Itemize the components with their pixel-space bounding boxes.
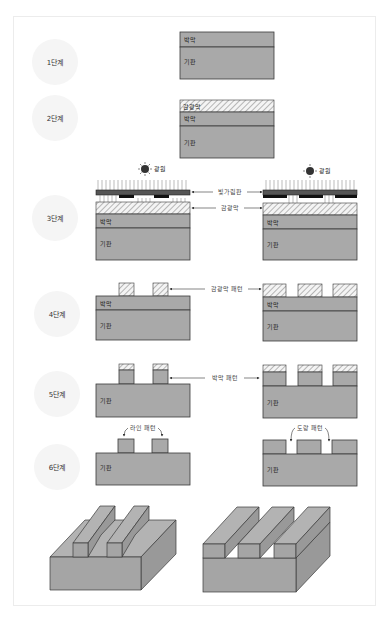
substrate-label: 기판: [100, 240, 112, 248]
thin-film-label: 박막: [100, 300, 112, 308]
thin-film-label: 박막: [267, 219, 279, 227]
line-pattern-block: [152, 439, 168, 453]
photoresist-pattern: [153, 283, 168, 296]
sun-icon: [306, 167, 314, 175]
thin-film-pattern: [263, 372, 286, 386]
photoresist-remnant: [153, 364, 168, 370]
photoresist-remnant: [119, 364, 134, 370]
substrate-label: 기판: [267, 241, 279, 249]
thin-film-pattern: [119, 370, 134, 384]
photomask-callout: 빛가림판: [218, 188, 242, 196]
substrate-label: 기판: [100, 397, 112, 405]
sun-icon: [141, 165, 149, 173]
step-1: 1단계 박막 기판: [32, 32, 274, 85]
photolithography-diagram: 1단계 박막 기판 2단계 감광막 박막 기판 3단계 광원: [0, 0, 389, 624]
thin-film-pattern: [333, 372, 357, 386]
line-pattern-block: [118, 439, 134, 453]
thin-film-pattern: [298, 372, 322, 386]
trench-wall-block: [297, 440, 321, 454]
substrate-label: 기판: [267, 466, 279, 474]
trench-wall-block: [263, 440, 286, 454]
arrow-line-pattern-right: [158, 428, 162, 436]
arrow-line-pattern-left: [124, 428, 128, 436]
step-label: 6단계: [49, 463, 65, 472]
trench-pattern-callout: 도랑 패턴: [297, 424, 323, 432]
light-rays-right: [266, 180, 354, 190]
photoresist-layer: [263, 203, 357, 215]
step-label: 3단계: [47, 214, 63, 223]
step-label: 4단계: [49, 310, 65, 319]
step-5: 5단계 기판 박막 패턴 기판: [34, 364, 357, 418]
step-2: 2단계 감광막 박막 기판: [32, 95, 274, 158]
step-label: 5단계: [49, 390, 65, 399]
photoresist-pattern: [298, 284, 322, 297]
step-6: 6단계 라인 패턴 기판 도랑 패턴 기판: [34, 424, 357, 490]
substrate-label: 기판: [100, 464, 112, 472]
step-label: 2단계: [47, 114, 63, 123]
photoresist-pattern: [333, 284, 357, 297]
light-source-left: 광원: [138, 162, 166, 176]
arrow-trench-pattern-left: [291, 428, 295, 441]
trench-wall-block: [332, 440, 357, 454]
light-rays-left: [98, 180, 186, 190]
photoresist-label: 감광막: [183, 103, 201, 111]
step-label: 1단계: [47, 58, 63, 67]
photoresist-remnant: [333, 365, 357, 372]
substrate-label: 기판: [100, 322, 112, 330]
light-source-label: 광원: [154, 165, 166, 172]
substrate-label: 기판: [267, 323, 279, 331]
thin-film-pattern: [153, 370, 168, 384]
light-source-label: 광원: [319, 167, 331, 174]
mask-opaque-region: [335, 195, 357, 198]
thin-film-label: 박막: [267, 301, 279, 309]
photoresist-remnant: [298, 365, 322, 372]
mask-opaque-region: [154, 195, 169, 198]
trench-pattern-3d: [203, 507, 330, 592]
thin-film-label: 박막: [184, 115, 196, 123]
photoresist-pattern: [263, 284, 286, 297]
step-3: 3단계 광원: [32, 162, 357, 260]
thin-film-label: 박막: [184, 36, 196, 44]
line-pattern-callout: 라인 패턴: [130, 424, 156, 432]
photoresist-pattern: [119, 283, 134, 296]
mask-opaque-region: [263, 195, 287, 198]
thin-film-label: 박막: [100, 218, 112, 226]
photomask-left: [96, 190, 190, 195]
photoresist-layer: [96, 202, 190, 214]
photomask-right: [263, 190, 357, 195]
substrate-label: 기판: [267, 399, 279, 407]
photoresist-remnant: [263, 365, 286, 372]
line-pattern-3d: [50, 506, 176, 590]
photoresist-pattern-callout: 감광막 패턴: [211, 285, 243, 293]
substrate-label: 기판: [184, 139, 196, 147]
photoresist-callout: 감광막: [221, 204, 239, 212]
arrow-trench-pattern-right: [325, 428, 329, 441]
mask-opaque-region: [119, 195, 134, 198]
step-4: 4단계 박막 기판 감광막 패턴 박막 기판: [34, 283, 357, 341]
substrate-label: 기판: [184, 58, 196, 66]
mask-opaque-region: [299, 195, 323, 198]
light-source-right: 광원: [303, 164, 331, 178]
thin-film-pattern-callout: 박막 패턴: [212, 374, 238, 382]
